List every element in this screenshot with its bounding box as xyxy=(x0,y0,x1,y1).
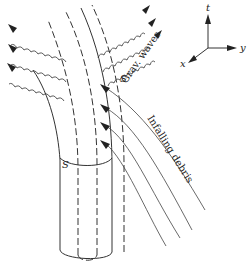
y-axis-label: y xyxy=(239,42,246,53)
arrow-head-icon xyxy=(148,18,156,27)
world-tube-outer xyxy=(33,8,112,259)
grav-waves-left xyxy=(7,24,66,101)
x-axis-label: x xyxy=(180,58,186,69)
infalling-debris-label: Infalling debris xyxy=(145,113,195,185)
arrow-head-icon xyxy=(100,122,110,131)
y-axis-arrow-icon xyxy=(227,45,237,51)
surface-s-lower-label: S xyxy=(62,159,69,170)
arrow-head-icon xyxy=(8,24,17,33)
t-axis-arrow-icon xyxy=(205,14,211,24)
spacetime-diagram: Grav. waves Infalling debris S S t y x xyxy=(0,0,252,266)
coordinate-axes: t y x xyxy=(180,2,246,69)
infalling-debris xyxy=(100,84,205,246)
surface-s-upper-label: S xyxy=(120,73,127,84)
x-axis-arrow-icon xyxy=(188,55,197,63)
t-axis-label: t xyxy=(206,2,211,13)
world-tube-inner xyxy=(48,5,124,260)
arrow-head-icon xyxy=(100,140,110,149)
arrow-head-icon xyxy=(8,44,17,53)
arrow-head-icon xyxy=(142,5,150,14)
